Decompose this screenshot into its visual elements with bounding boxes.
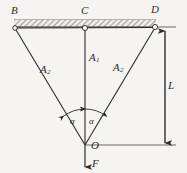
cable-a2-left-label: A2 bbox=[40, 64, 51, 76]
angle-left-label: α bbox=[70, 117, 75, 126]
cable-a1-label: A1 bbox=[89, 52, 100, 64]
cable-a2-right-subscript: 2 bbox=[120, 66, 124, 74]
force-f-label: F bbox=[92, 158, 99, 169]
cable-a1-subscript: 1 bbox=[96, 56, 100, 64]
cable-a2-right-line bbox=[85, 29, 155, 146]
node-d-label: D bbox=[151, 4, 159, 15]
cable-a2-right-letter: A bbox=[113, 61, 120, 73]
node-o-label: O bbox=[91, 140, 99, 151]
dimension-l-label: L bbox=[168, 80, 174, 91]
node-b-circle-icon bbox=[13, 26, 18, 31]
cable-a2-left-subscript: 2 bbox=[47, 68, 51, 76]
node-c-label: C bbox=[81, 5, 88, 16]
cable-a1-letter: A bbox=[89, 51, 96, 63]
cable-a2-left-letter: A bbox=[40, 63, 47, 75]
cable-a2-left-line bbox=[16, 29, 86, 145]
node-d-circle-icon bbox=[152, 24, 157, 29]
cable-a2-right-label: A2 bbox=[113, 62, 124, 74]
node-b-label: B bbox=[11, 5, 18, 16]
angle-right-label: α bbox=[89, 117, 94, 126]
node-c-circle-icon bbox=[82, 25, 87, 30]
figure-canvas: B C D A1 A2 A2 α α O L F bbox=[0, 0, 187, 173]
